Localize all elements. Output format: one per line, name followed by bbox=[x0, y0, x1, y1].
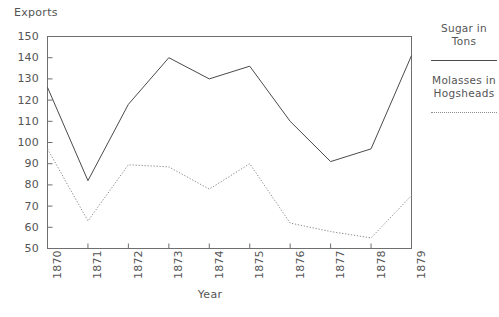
x-tick-label: 1873 bbox=[173, 250, 184, 279]
y-tick-label: 90 bbox=[5, 158, 39, 169]
y-tick-label: 110 bbox=[5, 116, 39, 127]
legend-label-sugar-line1: Sugar in bbox=[441, 22, 487, 34]
x-tick-label: 1870 bbox=[52, 250, 63, 279]
x-tick-label: 1871 bbox=[92, 250, 103, 279]
legend-label-molasses-line2: Hogsheads bbox=[434, 87, 495, 99]
series-line-sugar bbox=[48, 56, 412, 181]
y-tick-label: 120 bbox=[5, 95, 39, 106]
x-axis-title: Year bbox=[0, 288, 420, 301]
y-tick-label: 50 bbox=[5, 243, 39, 254]
legend-entry-molasses: Molasses in Hogsheads bbox=[418, 74, 499, 100]
chart-figure: Exports 5060708090100110120130140150 187… bbox=[0, 0, 499, 317]
series-line-molasses bbox=[48, 149, 412, 238]
legend-entry-sugar: Sugar in Tons bbox=[418, 22, 499, 48]
y-tick-marks bbox=[48, 37, 53, 249]
x-tick-label: 1877 bbox=[335, 250, 346, 279]
x-tick-label: 1878 bbox=[376, 250, 387, 279]
y-tick-label: 80 bbox=[5, 179, 39, 190]
legend-sample-sugar bbox=[431, 60, 497, 61]
x-tick-label: 1876 bbox=[295, 250, 306, 279]
x-tick-label: 1879 bbox=[416, 250, 427, 279]
plot-frame bbox=[48, 37, 412, 249]
x-tick-marks bbox=[48, 244, 412, 249]
y-tick-label: 140 bbox=[5, 52, 39, 63]
x-tick-label: 1872 bbox=[133, 250, 144, 279]
y-tick-label: 100 bbox=[5, 137, 39, 148]
y-tick-label: 130 bbox=[5, 73, 39, 84]
y-tick-label: 70 bbox=[5, 201, 39, 212]
y-tick-label: 60 bbox=[5, 222, 39, 233]
x-tick-label: 1874 bbox=[214, 250, 225, 279]
legend-label-molasses-line1: Molasses in bbox=[432, 74, 496, 86]
y-tick-label: 150 bbox=[5, 31, 39, 42]
x-tick-label: 1875 bbox=[254, 250, 265, 279]
legend-sample-molasses bbox=[431, 112, 497, 113]
legend-label-sugar-line2: Tons bbox=[452, 35, 476, 47]
